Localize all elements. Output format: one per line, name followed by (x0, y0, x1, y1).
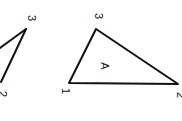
left-triangle-vertex-label-bottom: 2 (0, 91, 9, 97)
right-triangle-a: A 1 3 2 (60, 13, 182, 98)
right-triangle-vertex-label-left: 1 (60, 88, 72, 94)
left-triangle: 3 2 (0, 15, 38, 97)
right-triangle-region-label: A (99, 62, 111, 70)
right-triangle-outline (69, 29, 178, 84)
right-triangle-vertex-label-right: 2 (175, 92, 182, 98)
left-triangle-vertex-label-top: 3 (26, 15, 38, 21)
right-triangle-vertex-label-top: 3 (93, 13, 105, 19)
triangle-diagram: 3 2 A 1 3 2 (0, 0, 182, 121)
